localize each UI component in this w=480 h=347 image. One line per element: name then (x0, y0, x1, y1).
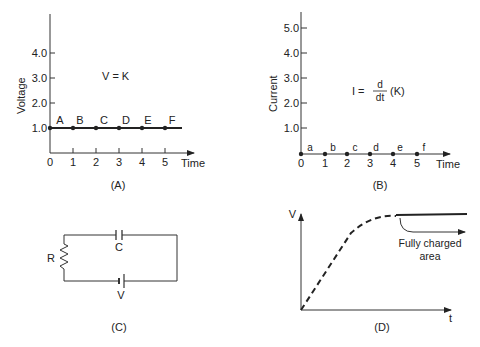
x-tick-label: 1 (322, 157, 328, 169)
y-tick-label: 2.0 (32, 97, 47, 109)
x-tick-label: 3 (116, 156, 122, 168)
battery-label: V (117, 289, 125, 301)
x-tick-label: 5 (414, 157, 420, 169)
x-tick-label: 4 (139, 156, 145, 168)
x-tick-label: 2 (344, 157, 350, 169)
panel-b-current-chart: 1.0 2.0 3.0 4.0 5.0 0 1 2 3 4 5 Time Cur… (267, 12, 460, 191)
point-label: C (100, 114, 108, 126)
x-tick-label: 0 (47, 156, 53, 168)
panel-a-voltage-chart: 1.0 2.0 3.0 4.0 0 1 2 3 4 5 Time Voltage… (15, 14, 205, 191)
figure-canvas: 1.0 2.0 3.0 4.0 0 1 2 3 4 5 Time Voltage… (0, 0, 480, 347)
x-axis-label: Time (181, 157, 205, 169)
resistor-label: R (47, 252, 55, 264)
y-tick-label: 4.0 (284, 47, 299, 59)
caption-b: (B) (373, 179, 388, 191)
point-label: e (397, 142, 403, 153)
x-tick-label: 4 (390, 157, 396, 169)
y-axis-label: V (289, 208, 297, 220)
y-tick-label: 4.0 (32, 47, 47, 59)
point-label: f (423, 142, 426, 153)
caption-a: (A) (111, 179, 126, 191)
x-tick-label: 3 (367, 157, 373, 169)
y-axis-label: Voltage (15, 77, 27, 114)
point-label: A (56, 114, 64, 126)
point-label: b (330, 142, 336, 153)
point-label: E (144, 114, 151, 126)
point-label: F (169, 114, 176, 126)
point-label: d (373, 142, 379, 153)
annotation-arrow (400, 218, 465, 232)
svg-text:dt: dt (376, 92, 385, 103)
panel-c-circuit: R C V (C) (47, 230, 177, 333)
y-tick-label: 2.0 (284, 97, 299, 109)
capacitor-label: C (115, 241, 123, 253)
y-tick-label: 5.0 (284, 22, 299, 34)
panel-d-charging-curve: V t Fully charged area (D) (289, 208, 467, 333)
equation: V = K (102, 70, 130, 82)
point-label: c (353, 142, 358, 153)
y-axis-label: Current (267, 75, 279, 112)
caption-c: (C) (111, 321, 126, 333)
point-label: B (76, 114, 83, 126)
x-axis-label: t (449, 312, 452, 324)
annotation-text: area (419, 250, 440, 262)
svg-text:d: d (377, 79, 383, 90)
y-tick-label: 1.0 (284, 122, 299, 134)
point-label: a (307, 142, 313, 153)
svg-text:(K): (K) (390, 85, 405, 97)
x-tick-label: 1 (70, 156, 76, 168)
annotation-text: Fully charged (398, 237, 461, 249)
y-tick-label: 3.0 (32, 72, 47, 84)
equation: I = d dt (K) (352, 79, 405, 103)
charging-curve (301, 216, 396, 310)
x-tick-label: 5 (162, 156, 168, 168)
x-tick-label: 2 (93, 156, 99, 168)
caption-d: (D) (374, 321, 389, 333)
fully-charged-line (396, 214, 467, 215)
x-axis-label: Time (436, 158, 460, 170)
svg-text:I =: I = (352, 85, 365, 97)
y-tick-label: 3.0 (284, 72, 299, 84)
point-label: D (122, 114, 130, 126)
x-tick-label: 0 (298, 157, 304, 169)
resistor-icon (60, 244, 68, 269)
y-tick-label: 1.0 (32, 122, 47, 134)
